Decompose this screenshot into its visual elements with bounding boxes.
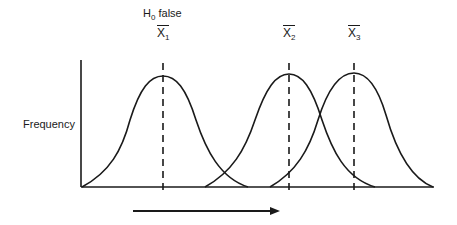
- y-axis-label: Frequency: [23, 118, 75, 130]
- direction-arrow-head: [270, 207, 280, 215]
- mean-label-1: X1: [157, 26, 169, 42]
- distribution-curve-2: [205, 74, 375, 187]
- distribution-curve-1: [82, 76, 248, 187]
- mean-symbol: X: [348, 26, 356, 40]
- mean-subscript: 3: [356, 33, 360, 42]
- mean-subscript: 1: [165, 33, 169, 42]
- mean-label-3: X3: [348, 26, 360, 42]
- distribution-diagram: [0, 0, 457, 225]
- hypothesis-suffix: false: [155, 7, 181, 19]
- mean-subscript: 2: [291, 33, 295, 42]
- mean-symbol: X: [157, 26, 165, 40]
- hypothesis-label: H0 false: [143, 7, 182, 22]
- mean-symbol: X: [283, 26, 291, 40]
- mean-label-2: X2: [283, 26, 295, 42]
- hypothesis-h: H: [143, 7, 151, 19]
- distribution-curve-3: [270, 73, 433, 187]
